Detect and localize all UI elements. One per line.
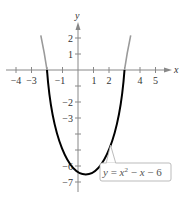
x-tick-label: −3	[26, 75, 37, 86]
x-axis-label: x	[173, 64, 179, 75]
y-axis-arrow-icon	[76, 22, 81, 30]
x-axis: x −4 −3 −1 1 2 4 5	[6, 64, 179, 86]
x-tick-label: 2	[107, 75, 112, 86]
y-tick-label: 2	[68, 33, 73, 44]
y-axis-label: y	[74, 10, 80, 21]
x-tick-label: 5	[153, 75, 158, 86]
x-tick-label: −4	[11, 75, 22, 86]
equation-callout: y = x2 − x − 6	[100, 145, 171, 181]
parabola-curve	[41, 35, 131, 174]
x-tick-label: −1	[55, 75, 66, 86]
y-tick-label: 1	[68, 49, 73, 60]
x-axis-arrow-icon	[164, 68, 172, 73]
y-tick-label: −3	[62, 113, 73, 124]
parabola-chart: x −4 −3 −1 1 2 4 5 y 2 1 −	[0, 0, 185, 199]
x-tick-label: 4	[138, 75, 143, 86]
y-tick-label: −2	[62, 97, 73, 108]
x-tick-label: 1	[92, 75, 97, 86]
equation-label: y = x2 − x − 6	[102, 166, 162, 178]
y-tick-label: −7	[62, 177, 73, 188]
